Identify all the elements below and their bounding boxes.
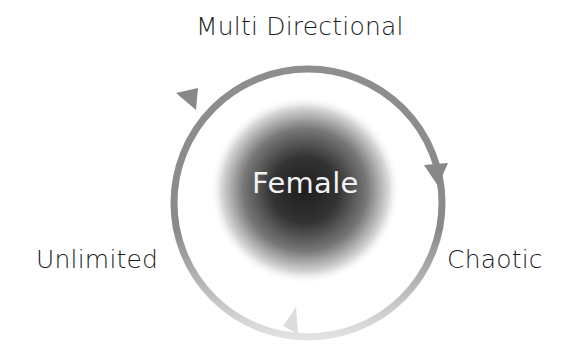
label-chaotic: Chaotic xyxy=(447,245,543,274)
arrow-upper-left-icon xyxy=(176,88,198,110)
label-multi-directional: Multi Directional xyxy=(196,12,404,41)
center-label: Female xyxy=(252,166,359,200)
arrow-right-icon xyxy=(424,163,448,186)
label-unlimited: Unlimited xyxy=(36,245,158,274)
arrow-bottom-icon xyxy=(283,307,298,334)
